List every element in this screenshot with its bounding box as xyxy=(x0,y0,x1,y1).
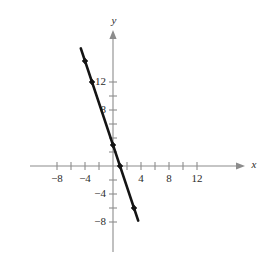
x-tick-label: −4 xyxy=(79,172,91,184)
y-axis-label: y xyxy=(111,14,117,26)
x-axis-arrow-icon xyxy=(236,162,245,169)
x-axis-tick-labels: −8−44812 xyxy=(51,172,202,184)
series-line xyxy=(81,48,138,220)
y-tick-label: −4 xyxy=(94,187,106,199)
y-axis-arrow-icon xyxy=(109,30,116,39)
coordinate-plane: −8−44812 −8−4812 x y xyxy=(0,0,278,266)
y-tick-label: −8 xyxy=(94,215,106,227)
x-axis-label: x xyxy=(251,158,257,170)
y-tick-label: 12 xyxy=(95,75,106,87)
x-tick-label: −8 xyxy=(51,172,63,184)
x-tick-label: 12 xyxy=(192,172,203,184)
graph-canvas: −8−44812 −8−4812 x y xyxy=(0,0,278,266)
x-tick-label: 4 xyxy=(138,172,144,184)
x-tick-label: 8 xyxy=(166,172,172,184)
data-series-line xyxy=(81,48,138,220)
